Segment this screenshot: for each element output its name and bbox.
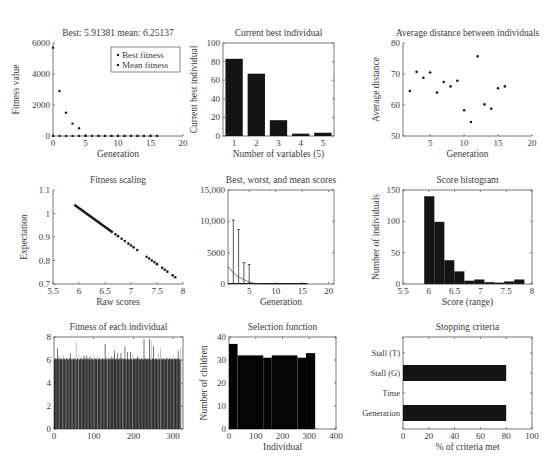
bar-variable-1 [225, 59, 242, 136]
x-tick-label: 6 [427, 286, 432, 296]
scaling-point [171, 274, 174, 277]
x-tick-label: 100 [525, 431, 539, 441]
scaling-point [120, 237, 123, 240]
criterion-label: Stall (T) [371, 348, 400, 358]
distance-point [497, 87, 500, 90]
x-tick-label: 0 [51, 138, 56, 148]
scaling-point [151, 259, 154, 262]
x-axis-label: Individual [263, 442, 302, 452]
x-tick-label: 7 [478, 286, 483, 296]
y-tick-label: 60 [391, 100, 401, 110]
plot-frame [403, 190, 532, 284]
legend-marker [117, 54, 119, 56]
y-tick-label: 15,000 [200, 185, 225, 195]
y-tick-label: 100 [387, 216, 401, 226]
bar-variable-4 [292, 134, 309, 136]
y-tick-label: 1 [46, 209, 51, 219]
distance-point [470, 121, 473, 124]
x-tick-label: 40 [450, 431, 460, 441]
x-axis-label: Generation [97, 149, 139, 159]
y-tick-label: 6000 [32, 38, 51, 48]
mean-fitness-point [104, 135, 106, 137]
mean-fitness-point [156, 135, 158, 137]
y-tick-label: 6 [47, 355, 52, 365]
selection-bar [238, 355, 264, 429]
y-axis-label: Expectation [19, 214, 29, 260]
x-tick-label: 15 [298, 286, 308, 296]
scaling-point [136, 249, 139, 252]
chart-panel-best-worst-mean: Best, worst, and mean scores510152005000… [200, 175, 336, 307]
histogram-bin [434, 222, 444, 284]
x-tick-label: 0 [401, 431, 406, 441]
distance-point [483, 103, 486, 106]
distance-point [442, 81, 445, 84]
distance-point [456, 80, 459, 83]
x-tick-label: 5 [321, 138, 326, 148]
mean-fitness-point [71, 122, 73, 124]
scaling-point [132, 246, 135, 249]
x-tick-label: 6 [77, 286, 82, 296]
y-tick-label: 4 [47, 378, 52, 388]
histogram-bin [424, 196, 434, 284]
chart-panel-score-histogram: Score histogram5.566.577.58050100150Scor… [371, 175, 535, 308]
y-tick-label: 100 [207, 38, 221, 48]
mean-score-line [228, 266, 308, 284]
criterion-bar-generation [403, 405, 506, 421]
selection-bar [229, 344, 238, 429]
y-axis-label: Current best individual [189, 45, 199, 133]
chart-title: Best: 5.91381 mean: 6.25137 [62, 28, 174, 38]
chart-panel-selection-function: Selection function0100200300400010203040… [199, 322, 343, 452]
x-axis-label: Raw scores [96, 297, 140, 307]
chart-panel-fitness: Best: 5.91381 mean: 6.251370510152002000… [11, 28, 188, 159]
x-tick-label: 200 [276, 431, 290, 441]
histogram-bin [454, 271, 464, 284]
scaling-point [161, 267, 164, 270]
legend-entry: Mean fitness [122, 60, 169, 70]
mean-fitness-point [110, 135, 112, 137]
mean-fitness-point [130, 135, 132, 137]
x-tick-label: 100 [249, 431, 263, 441]
y-tick-label: 0 [222, 424, 227, 434]
x-tick-label: 20 [179, 138, 189, 148]
scaling-point [127, 242, 130, 245]
histogram-bin [514, 280, 524, 284]
y-tick-label: 50 [391, 131, 401, 141]
legend: Best fitnessMean fitness [111, 47, 180, 72]
x-tick-label: 100 [87, 431, 101, 441]
chart-title: Selection function [248, 322, 318, 332]
y-tick-label: 80 [391, 38, 401, 48]
x-axis-label: Score (range) [442, 297, 493, 308]
selection-bar [306, 353, 315, 429]
distance-point [490, 107, 493, 110]
criterion-label: Time [382, 388, 400, 398]
x-axis-label: Number of variables (5) [233, 149, 325, 160]
x-tick-label: 200 [127, 431, 141, 441]
mean-fitness-point [97, 135, 99, 137]
histogram-bin [474, 280, 484, 284]
y-axis-label: Number of individuals [371, 194, 381, 280]
ga-plot-figure: Best: 5.91381 mean: 6.251370510152002000… [0, 0, 559, 473]
scaling-point [166, 270, 169, 273]
histogram-bin [464, 281, 474, 284]
mean-fitness-point [65, 112, 67, 114]
y-tick-label: 0 [216, 131, 221, 141]
x-tick-label: 80 [502, 431, 512, 441]
y-tick-label: 0 [221, 279, 226, 289]
x-tick-label: 5 [428, 138, 433, 148]
distance-point [476, 55, 479, 58]
chart-title: Average distance between individuals [396, 28, 540, 38]
legend-entry: Best fitness [122, 50, 164, 60]
x-tick-label: 8 [181, 286, 186, 296]
scaling-point [145, 255, 148, 258]
y-tick-label: 10,000 [200, 216, 225, 226]
x-tick-label: 5 [83, 138, 88, 148]
x-tick-label: 4 [298, 138, 303, 148]
y-tick-label: 50 [391, 248, 401, 258]
individual-bar [181, 360, 182, 429]
chart-title: Current best individual [235, 28, 323, 38]
criterion-label: Generation [362, 408, 401, 418]
scaling-point [123, 240, 126, 243]
x-tick-label: 8 [530, 286, 535, 296]
scaling-point [174, 276, 177, 279]
mean-fitness-point [136, 135, 138, 137]
